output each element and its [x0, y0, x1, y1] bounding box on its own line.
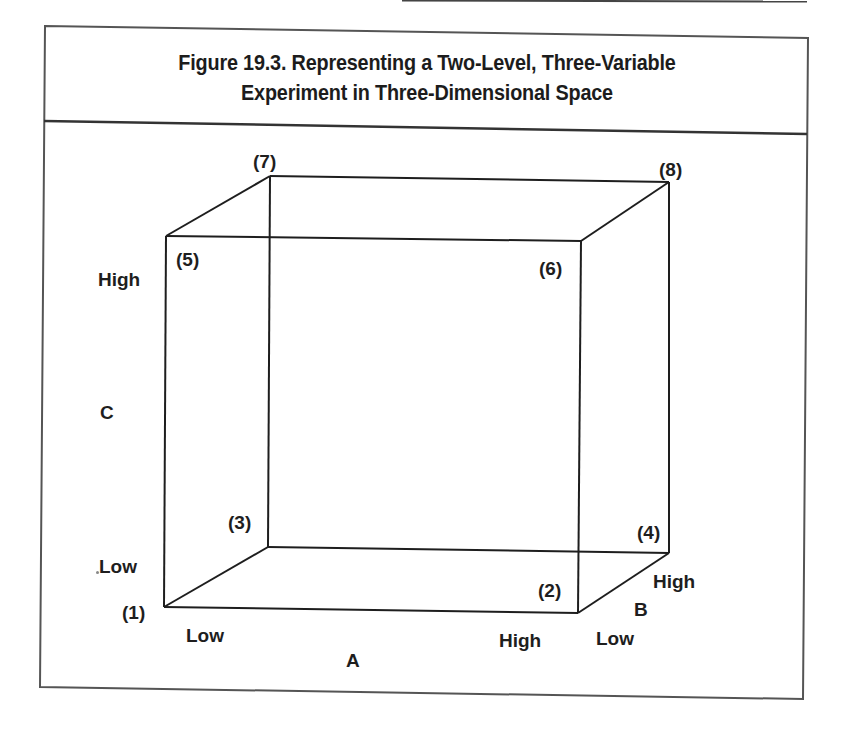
vertex-label-2: (2) [538, 581, 561, 600]
axis-c-low-label: Low [99, 557, 137, 576]
axis-c-high-label: High [98, 270, 140, 289]
vertex-label-7: (7) [253, 152, 276, 171]
vertex-label-8: (8) [659, 160, 682, 179]
axis-a-name-label: A [346, 651, 360, 670]
vertex-label-3: (3) [228, 513, 251, 532]
cube-edges [164, 176, 669, 613]
page-rule-fragment [402, 1, 807, 2]
axis-b-name-label: B [634, 600, 648, 619]
axis-a-low-label: Low [186, 626, 224, 645]
title-divider [44, 121, 807, 134]
axis-a-high-label: High [499, 631, 541, 650]
figure-title-line-2: Experiment in Three-Dimensional Space [88, 82, 767, 104]
vertex-label-4: (4) [637, 523, 660, 542]
axis-c-name-label: C [100, 403, 114, 422]
vertex-label-1: (1) [122, 603, 145, 622]
axis-b-low-label: Low [596, 629, 634, 648]
figure-title-line-1: Figure 19.3. Representing a Two-Level, T… [88, 52, 767, 74]
cube-diagram [0, 0, 847, 736]
axis-b-high-label: High [653, 572, 695, 591]
vertex-label-6: (6) [539, 259, 562, 278]
vertex-label-5: (5) [176, 250, 199, 269]
